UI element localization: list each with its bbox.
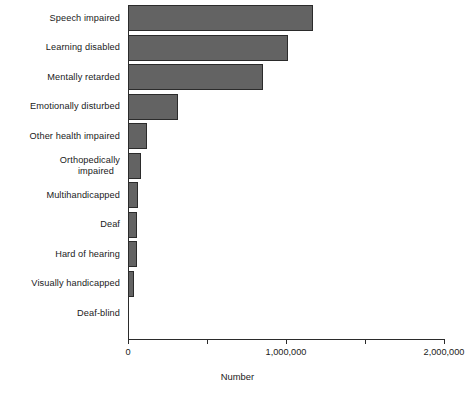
x-tick-label: 2,000,000 (424, 347, 465, 357)
category-label-line: Multihandicapped (46, 190, 120, 200)
x-tick (365, 339, 366, 344)
category-label: Multihandicapped (0, 190, 120, 202)
category-label-line: Deaf-blind (77, 308, 120, 318)
y-axis-line (128, 5, 129, 340)
x-tick (286, 339, 287, 344)
bar (128, 64, 263, 90)
category-label: Emotionally disturbed (0, 101, 120, 113)
category-label-line: Mentally retarded (47, 72, 120, 82)
bar (128, 123, 147, 149)
x-axis-title: Number (0, 371, 475, 382)
bar (128, 182, 138, 208)
category-label-line: impaired (0, 166, 120, 178)
plot-area (128, 5, 444, 335)
bar-chart: Speech impairedLearning disabledMentally… (0, 0, 475, 399)
category-label-line: Emotionally disturbed (30, 101, 120, 111)
category-label: Deaf-blind (0, 308, 120, 320)
bar (128, 212, 137, 238)
x-tick-label: 1,000,000 (266, 347, 307, 357)
category-label: Hard of hearing (0, 249, 120, 261)
category-label: Speech impaired (0, 13, 120, 25)
bar (128, 35, 288, 61)
category-label: Mentally retarded (0, 72, 120, 84)
category-label-line: Hard of hearing (55, 249, 120, 259)
x-tick-label: 0 (125, 347, 130, 357)
bar (128, 94, 178, 120)
category-label-line: Speech impaired (50, 13, 120, 23)
category-label-line: Learning disabled (46, 42, 120, 52)
category-label: Deaf (0, 219, 120, 231)
bar (128, 241, 137, 267)
bar (128, 153, 141, 179)
category-label: Learning disabled (0, 42, 120, 54)
category-label-line: Orthopedically (60, 155, 120, 165)
x-tick (444, 339, 445, 344)
category-label-line: Visually handicapped (31, 278, 120, 288)
category-label-line: Deaf (100, 219, 120, 229)
category-label: Visually handicapped (0, 278, 120, 290)
category-axis-labels: Speech impairedLearning disabledMentally… (0, 5, 120, 335)
category-label: Other health impaired (0, 131, 120, 143)
category-label: Orthopedicallyimpaired (0, 155, 120, 178)
bar (128, 5, 313, 31)
x-tick (207, 339, 208, 344)
category-label-line: Other health impaired (30, 131, 120, 141)
x-tick (128, 339, 129, 344)
